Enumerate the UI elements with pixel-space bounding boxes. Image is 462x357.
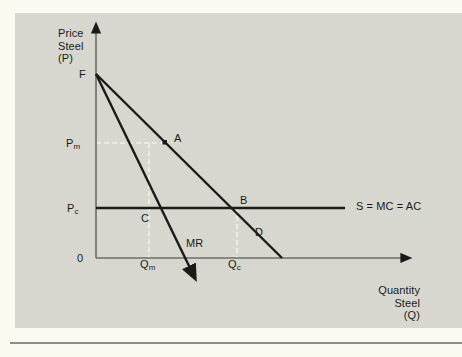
guide-lines	[96, 143, 237, 258]
quantity-tick-qc-subscript: c	[237, 263, 241, 272]
x-axis-label: Quantity Steel (Q)	[330, 284, 420, 322]
quantity-tick-qm-subscript: m	[149, 263, 156, 272]
point-label-c: C	[141, 212, 149, 225]
quantity-tick-qc: Qc	[228, 258, 241, 273]
curve-label-demand: D	[255, 226, 263, 239]
price-tick-pm-subscript: m	[73, 142, 80, 151]
point-marker-a	[163, 140, 168, 145]
price-tick-pc: Pc	[67, 202, 79, 217]
economics-diagram-figure: Price Steel (P) Quantity Steel (Q) 0 F A…	[0, 0, 462, 357]
y-axis-label: Price Steel (P)	[58, 27, 84, 65]
point-label-f: F	[79, 68, 86, 81]
quantity-tick-qm: Qm	[140, 258, 155, 273]
price-tick-pm: Pm	[66, 137, 80, 152]
point-label-a: A	[174, 132, 181, 145]
bottom-divider	[10, 342, 462, 344]
curve-label-supply: S = MC = AC	[356, 200, 421, 213]
origin-label: 0	[77, 252, 83, 265]
curve-label-marginal-revenue: MR	[186, 237, 203, 250]
point-label-b: B	[240, 194, 247, 207]
price-tick-pc-subscript: c	[74, 207, 78, 216]
marginal-revenue-curve	[96, 74, 190, 268]
